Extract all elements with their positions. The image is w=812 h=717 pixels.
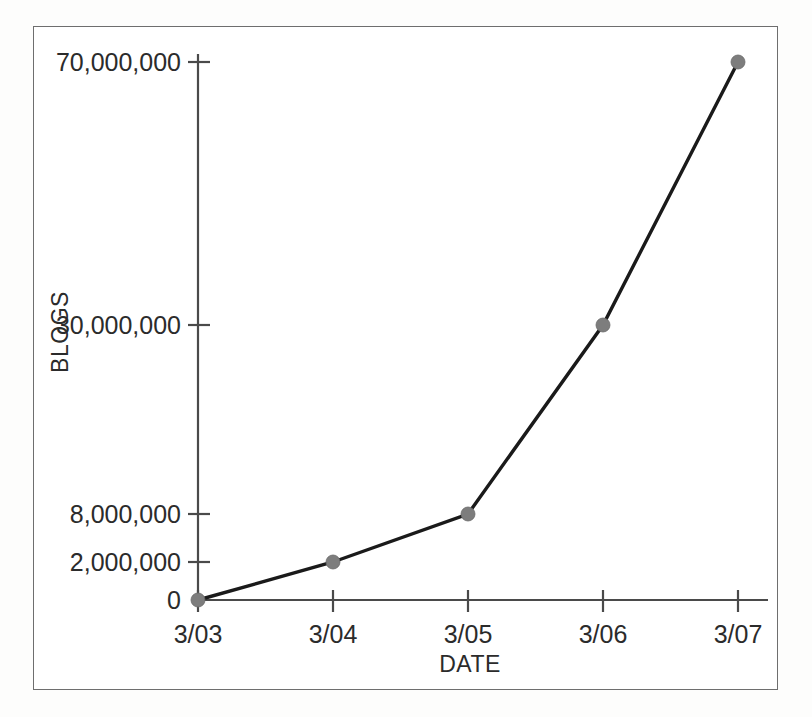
y-axis-title: BLOGS [47,291,73,373]
figure-container: 70,000,000 30,000,000 8,000,000 2,000,00… [0,0,812,717]
x-tick-label-0: 3/03 [174,620,223,648]
data-point-marker-2[interactable] [461,507,475,521]
x-tick-label-3: 3/06 [579,620,628,648]
line-chart: 70,000,000 30,000,000 8,000,000 2,000,00… [0,0,812,717]
x-tick-label-4: 3/07 [714,620,763,648]
y-tick-label-0: 0 [167,586,181,614]
y-tick-label-30m: 30,000,000 [56,311,181,339]
x-tick-label-2: 3/05 [444,620,493,648]
data-point-marker-3[interactable] [596,318,610,332]
data-point-marker-0[interactable] [191,593,205,607]
y-tick-label-8m: 8,000,000 [70,500,181,528]
y-tick-label-2m: 2,000,000 [70,548,181,576]
y-tick-label-70m: 70,000,000 [56,48,181,76]
x-axis-title: DATE [439,651,501,677]
x-tick-label-1: 3/04 [309,620,358,648]
data-point-marker-1[interactable] [326,555,340,569]
data-point-marker-4[interactable] [731,55,745,69]
